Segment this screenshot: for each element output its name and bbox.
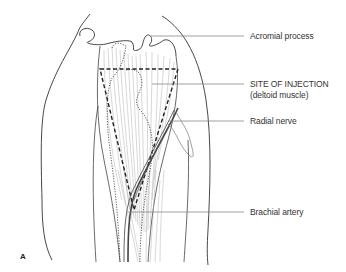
muscle-fibers bbox=[104, 47, 174, 262]
label-brachial-artery: Brachial artery bbox=[250, 207, 303, 217]
leader-lines bbox=[128, 36, 244, 212]
inner-arm-line-2 bbox=[184, 140, 189, 262]
arm-outline-left bbox=[41, 14, 90, 260]
panel-letter: A bbox=[20, 252, 26, 261]
label-radial-nerve: Radial nerve bbox=[250, 116, 297, 126]
humerus-dotted-outline bbox=[107, 43, 126, 262]
triceps-outline bbox=[168, 112, 193, 157]
inner-arm-line bbox=[93, 106, 98, 262]
acromion-shape bbox=[80, 28, 176, 56]
label-site-of-injection: SITE OF INJECTION bbox=[250, 79, 329, 89]
deltoid-outline bbox=[97, 46, 120, 262]
label-deltoid-muscle: (deltoid muscle) bbox=[250, 90, 308, 100]
label-acromial-process: Acromial process bbox=[250, 31, 314, 41]
